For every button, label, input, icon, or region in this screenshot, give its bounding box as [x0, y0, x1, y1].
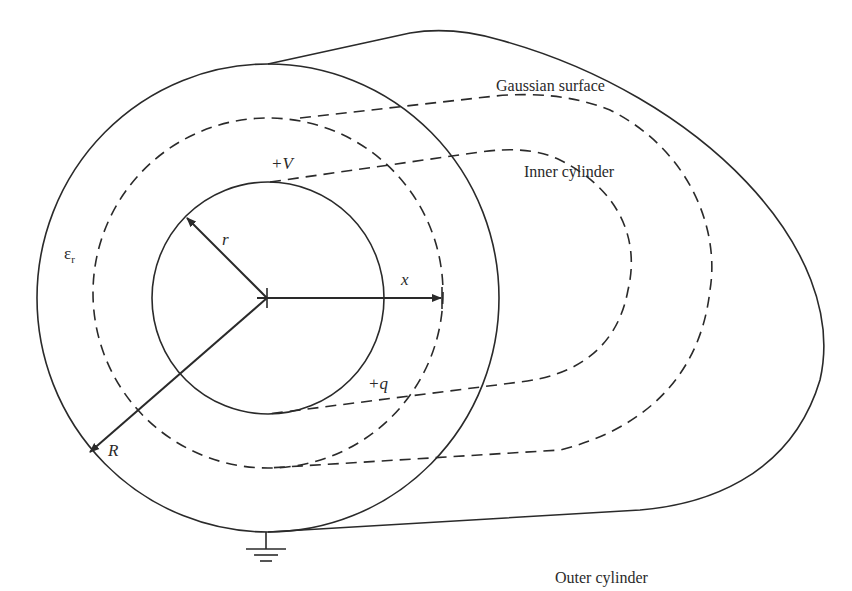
outer-radius-arrow [90, 298, 267, 452]
gaussian-surface-label: Gaussian surface [496, 77, 605, 94]
ground-icon [246, 532, 286, 561]
gaussian-surface-front [93, 118, 443, 468]
outer-cylinder-back-surface [268, 31, 824, 532]
outer-cylinder-label: Outer cylinder [555, 569, 649, 587]
inner-cylinder-label: Inner cylinder [524, 163, 615, 181]
outer-radius-label: R [107, 441, 119, 460]
charge-label: +q [368, 374, 388, 393]
gaussian-radius-label: x [400, 270, 409, 289]
permittivity-label: εr [64, 244, 75, 265]
inner-cylinder-back [268, 150, 631, 414]
potential-label: +V [271, 154, 295, 173]
coaxial-cylinder-diagram: Gaussian surface Inner cylinder Outer cy… [0, 0, 852, 591]
inner-radius-label: r [222, 230, 229, 249]
